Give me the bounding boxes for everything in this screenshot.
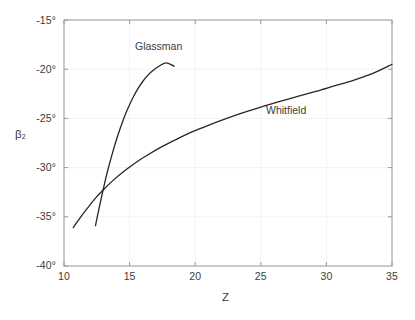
ytick-label-minus25: -25° — [18, 112, 56, 124]
axes-frame — [64, 20, 392, 266]
ytick-label-minus35: -35° — [18, 210, 56, 222]
axis-ticks — [64, 20, 392, 266]
ytick-label-minus15: -15° — [18, 14, 56, 26]
xtick-label-35: 35 — [376, 270, 408, 282]
curve-annotation-whitfield: Whitfield — [266, 104, 306, 116]
xtick-label-30: 30 — [310, 270, 342, 282]
chart-figure: -15° -20° -25° -30° -35° -40° 10 15 20 2… — [0, 0, 415, 320]
y-axis-title: β₂ — [15, 128, 26, 140]
curve-annotation-glassman: Glassman — [135, 40, 182, 52]
xtick-label-15: 15 — [114, 270, 146, 282]
gridlines — [64, 20, 392, 266]
x-axis-title: Z — [222, 291, 229, 303]
ytick-label-minus20: -20° — [18, 63, 56, 75]
xtick-label-10: 10 — [48, 270, 80, 282]
xtick-label-20: 20 — [179, 270, 211, 282]
xtick-label-25: 25 — [245, 270, 277, 282]
curve-glassman — [95, 63, 174, 226]
data-curves — [73, 63, 392, 228]
ytick-label-minus30: -30° — [18, 161, 56, 173]
curve-whitfield — [73, 64, 392, 227]
